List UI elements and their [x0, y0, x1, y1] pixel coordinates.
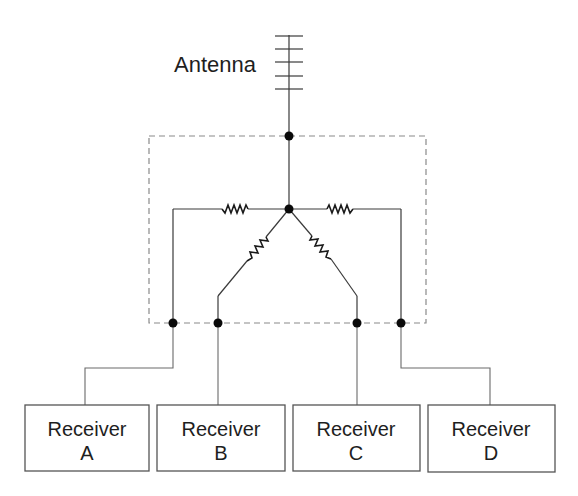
resistor-right-horizontal	[289, 205, 401, 323]
output-wire-a	[85, 323, 173, 405]
resistor-left-horizontal	[173, 205, 289, 323]
resistor-right-diagonal	[289, 209, 357, 323]
receiver-c-id: C	[349, 442, 363, 464]
receiver-d-title: Receiver	[452, 418, 531, 440]
junction-dot-feed	[285, 132, 294, 141]
junction-dot-a	[169, 319, 178, 328]
antenna-symbol-icon	[275, 35, 303, 136]
junction-dot-hub	[285, 205, 294, 214]
receiver-c-title: Receiver	[317, 418, 396, 440]
receiver-b-box: Receiver B	[157, 405, 285, 471]
splitter-enclosure	[149, 136, 426, 323]
antenna-splitter-diagram: Antenna	[0, 0, 578, 496]
receiver-d-id: D	[484, 442, 498, 464]
antenna-label: Antenna	[174, 52, 257, 77]
junction-dot-d	[397, 319, 406, 328]
receiver-c-box: Receiver C	[293, 405, 420, 471]
resistor-left-diagonal	[218, 209, 289, 323]
junction-dot-c	[353, 319, 362, 328]
receiver-a-id: A	[80, 442, 94, 464]
receiver-d-box: Receiver D	[428, 405, 555, 472]
junction-dot-b	[214, 319, 223, 328]
output-wire-d	[401, 323, 490, 405]
receiver-b-id: B	[214, 442, 227, 464]
receiver-a-box: Receiver A	[25, 405, 149, 471]
receiver-b-title: Receiver	[182, 418, 261, 440]
receiver-a-title: Receiver	[48, 418, 127, 440]
